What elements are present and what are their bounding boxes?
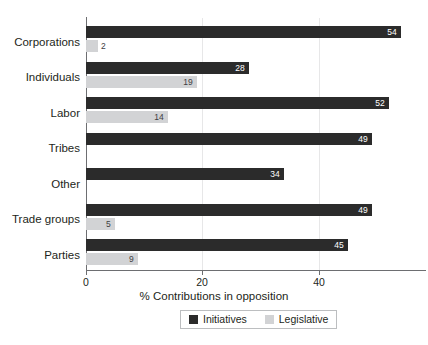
chart-legend: Initiatives Legislative bbox=[180, 310, 337, 329]
category-label-other: Other bbox=[0, 178, 80, 191]
x-tick-label-40: 40 bbox=[299, 276, 339, 289]
legend-item-initiatives: Initiatives bbox=[189, 314, 247, 325]
bar-initiatives-trade-groups: 49 bbox=[86, 204, 372, 216]
bar-value-legislative-labor: 14 bbox=[154, 111, 164, 123]
bar-value-initiatives-other: 34 bbox=[270, 168, 280, 180]
category-label-labor: Labor bbox=[0, 107, 80, 120]
bar-value-initiatives-trade-groups: 49 bbox=[358, 204, 368, 216]
bar-legislative-trade-groups: 5 bbox=[86, 218, 115, 230]
x-tick-label-20: 20 bbox=[182, 276, 222, 289]
bar-value-legislative-individuals: 19 bbox=[183, 76, 193, 88]
bar-value-initiatives-labor: 52 bbox=[375, 97, 385, 109]
x-tick-0 bbox=[86, 271, 87, 275]
bar-initiatives-labor: 52 bbox=[86, 97, 389, 109]
bar-value-initiatives-tribes: 49 bbox=[358, 133, 368, 145]
category-label-individuals: Individuals bbox=[0, 71, 80, 84]
bar-initiatives-other: 34 bbox=[86, 168, 284, 180]
bar-value-legislative-parties: 9 bbox=[129, 253, 134, 265]
legend-item-legislative: Legislative bbox=[265, 314, 329, 325]
bar-initiatives-parties: 45 bbox=[86, 239, 348, 251]
legend-swatch-initiatives-icon bbox=[189, 315, 198, 324]
plot-area: 54 2 28 19 52 14 49 34 49 bbox=[86, 18, 426, 270]
bar-initiatives-individuals: 28 bbox=[86, 62, 249, 74]
category-label-tribes: Tribes bbox=[0, 142, 80, 155]
legend-swatch-legislative-icon bbox=[265, 315, 274, 324]
category-label-parties: Parties bbox=[0, 249, 80, 262]
bar-legislative-individuals: 19 bbox=[86, 76, 197, 88]
bar-legislative-corporations: 2 bbox=[86, 40, 98, 52]
x-tick-20 bbox=[202, 271, 203, 275]
bar-value-initiatives-individuals: 28 bbox=[235, 62, 245, 74]
bar-chart: 0 20 40 Corporations Individuals Labor T… bbox=[0, 0, 428, 345]
bar-value-legislative-trade-groups: 5 bbox=[106, 218, 111, 230]
x-tick-40 bbox=[319, 271, 320, 275]
bar-legislative-labor: 14 bbox=[86, 111, 168, 123]
bar-value-legislative-corporations: 2 bbox=[101, 40, 106, 52]
bar-initiatives-corporations: 54 bbox=[86, 26, 401, 38]
category-label-corporations: Corporations bbox=[0, 36, 80, 49]
x-axis-line bbox=[86, 270, 426, 271]
legend-label-legislative: Legislative bbox=[279, 314, 329, 325]
x-axis-title: % Contributions in opposition bbox=[0, 290, 428, 302]
bar-legislative-parties: 9 bbox=[86, 253, 138, 265]
legend-label-initiatives: Initiatives bbox=[203, 314, 247, 325]
bar-value-initiatives-parties: 45 bbox=[334, 239, 344, 251]
bar-initiatives-tribes: 49 bbox=[86, 133, 372, 145]
bar-value-initiatives-corporations: 54 bbox=[387, 26, 397, 38]
x-tick-label-0: 0 bbox=[66, 276, 106, 289]
category-label-trade-groups: Trade groups bbox=[0, 213, 80, 226]
